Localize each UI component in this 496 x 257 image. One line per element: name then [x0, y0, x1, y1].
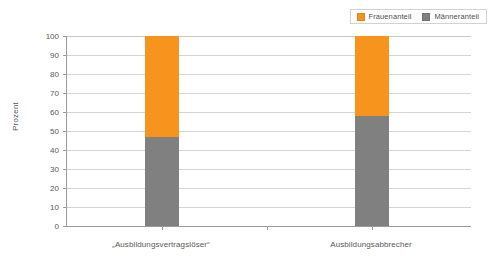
- y-axis-tick-label: 60: [50, 108, 59, 117]
- gray-square-swatch: [422, 13, 430, 21]
- gridline: [67, 188, 471, 189]
- gridline: [67, 36, 471, 37]
- gridline: [67, 74, 471, 75]
- legend-item-maenneranteil[interactable]: Männeranteil: [422, 13, 479, 21]
- y-axis-tick-label: 30: [50, 165, 59, 174]
- plot-area: 0102030405060708090100: [66, 36, 471, 227]
- gridline: [67, 93, 471, 94]
- y-axis-tick-label: 20: [50, 184, 59, 193]
- y-axis-tick-mark: [63, 226, 67, 227]
- bar-segment-maenneranteil[interactable]: [145, 137, 179, 226]
- stacked-bar-chart: Frauenanteil Männeranteil Prozent 010203…: [0, 0, 496, 257]
- legend-label-maenneranteil: Männeranteil: [434, 13, 479, 21]
- y-axis-tick-mark: [63, 207, 67, 208]
- legend-item-frauenanteil[interactable]: Frauenanteil: [357, 13, 412, 21]
- orange-square-swatch: [357, 13, 365, 21]
- gridline: [67, 55, 471, 56]
- gridline: [67, 112, 471, 113]
- y-axis-tick-label: 50: [50, 127, 59, 136]
- y-axis-tick-mark: [63, 74, 67, 75]
- x-axis-tick-mark: [372, 226, 373, 230]
- bar-1[interactable]: [145, 36, 179, 226]
- gridline: [67, 207, 471, 208]
- bar-2[interactable]: [355, 36, 389, 226]
- x-axis-tick-mark: [162, 226, 163, 230]
- x-axis-tick-label: „Ausbildungsvertragslöser“: [112, 240, 210, 249]
- bar-segment-frauenanteil[interactable]: [355, 36, 389, 116]
- y-axis-tick-mark: [63, 55, 67, 56]
- y-axis-tick-label: 0: [55, 222, 59, 231]
- y-axis-title: Prozent: [11, 102, 20, 131]
- y-axis-tick-label: 70: [50, 89, 59, 98]
- legend-label-frauenanteil: Frauenanteil: [369, 13, 412, 21]
- y-axis-tick-label: 100: [46, 32, 59, 41]
- y-axis-tick-mark: [63, 150, 67, 151]
- y-axis-tick-label: 10: [50, 203, 59, 212]
- y-axis-tick-mark: [63, 36, 67, 37]
- x-axis-tick-label: Ausbildungsabbrecher: [330, 240, 412, 249]
- x-axis-tick-mark-middle: [267, 226, 268, 230]
- y-axis-tick-mark: [63, 131, 67, 132]
- chart-legend: Frauenanteil Männeranteil: [350, 9, 487, 24]
- y-axis-tick-label: 80: [50, 70, 59, 79]
- y-axis-tick-mark: [63, 112, 67, 113]
- gridline: [67, 169, 471, 170]
- gridline: [67, 131, 471, 132]
- bar-segment-frauenanteil[interactable]: [145, 36, 179, 137]
- gridline: [67, 150, 471, 151]
- y-axis-tick-mark: [63, 188, 67, 189]
- y-axis-tick-label: 40: [50, 146, 59, 155]
- y-axis-tick-mark: [63, 93, 67, 94]
- y-axis-tick-label: 90: [50, 51, 59, 60]
- y-axis-tick-mark: [63, 169, 67, 170]
- bar-segment-maenneranteil[interactable]: [355, 116, 389, 226]
